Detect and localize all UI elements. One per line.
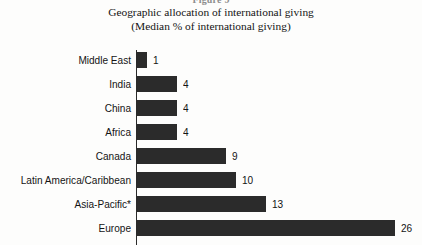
bar-value-label: 13 (272, 192, 283, 216)
bar (137, 76, 177, 92)
bar-row: Latin America/Caribbean10 (0, 168, 422, 192)
bar-row: Europe26 (0, 216, 422, 240)
bar-row: Asia-Pacific*13 (0, 192, 422, 216)
category-label: China (13, 96, 131, 120)
bar-value-label: 10 (242, 168, 253, 192)
bar-value-label: 1 (153, 48, 159, 72)
category-label: Latin America/Caribbean (13, 168, 131, 192)
chart-figure: Figure 9 Geographic allocation of intern… (0, 0, 422, 245)
bar (137, 148, 226, 164)
category-label: Africa (13, 120, 131, 144)
bar-row: China4 (0, 96, 422, 120)
plot-area: Middle East1India4China4Africa4Canada9La… (0, 48, 422, 245)
chart-title-subtitle: (Median % of international giving) (0, 19, 422, 33)
bar (137, 52, 147, 68)
category-label: Asia-Pacific* (13, 192, 131, 216)
bar (137, 100, 177, 116)
bar-row: Africa4 (0, 120, 422, 144)
bar-row: Middle East1 (0, 48, 422, 72)
chart-title: Geographic allocation of international g… (0, 5, 422, 33)
category-label: Europe (13, 216, 131, 240)
bar-value-label: 4 (183, 96, 189, 120)
category-label: Canada (13, 144, 131, 168)
bar (137, 196, 266, 212)
bar-value-label: 4 (183, 72, 189, 96)
bar (137, 124, 177, 140)
chart-title-line-1: Geographic allocation of international g… (0, 5, 422, 19)
bar (137, 172, 236, 188)
bar-value-label: 4 (183, 120, 189, 144)
bar-row: Canada9 (0, 144, 422, 168)
bar-value-label: 9 (232, 144, 238, 168)
category-label: Middle East (13, 48, 131, 72)
bar-value-label: 26 (401, 216, 412, 240)
bar-row: India4 (0, 72, 422, 96)
category-label: India (13, 72, 131, 96)
bar (137, 220, 395, 236)
